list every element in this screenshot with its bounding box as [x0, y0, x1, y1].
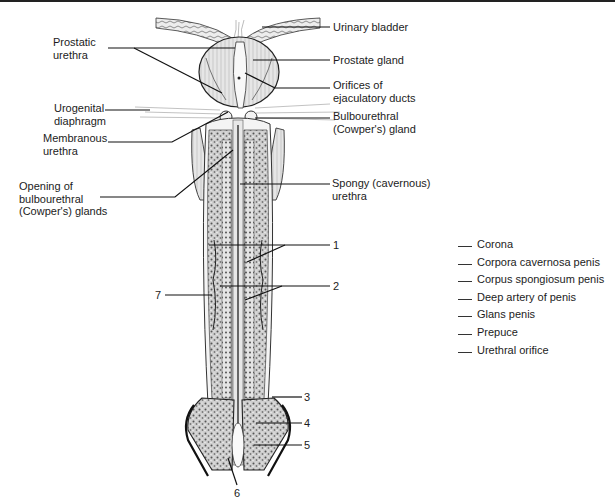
answer-key-item: Corpus spongiosum penis	[458, 271, 604, 289]
answer-key-item: Urethral orifice	[458, 342, 604, 360]
answer-blank[interactable]	[458, 264, 472, 265]
label-prostate-gland: Prostate gland	[333, 54, 404, 67]
answer-blank[interactable]	[458, 281, 472, 282]
answer-key-item: Corpora cavernosa penis	[458, 254, 604, 272]
label-bulbourethral-gland: Bulbourethral (Cowper's) gland	[333, 110, 416, 135]
answer-blank[interactable]	[458, 352, 472, 353]
callout-3: 3	[304, 391, 310, 403]
answer-key-list: Corona Corpora cavernosa penis Corpus sp…	[458, 236, 604, 359]
label-orifices-ejaculatory-ducts: Orifices of ejaculatory ducts	[333, 79, 416, 104]
answer-key-item: Prepuce	[458, 324, 604, 342]
answer-key-item: Glans penis	[458, 306, 604, 324]
callout-1: 1	[333, 239, 339, 251]
label-opening-bulbourethral-glands: Opening of bulbourethral (Cowper's) glan…	[19, 180, 107, 218]
answer-key-item: Deep artery of penis	[458, 289, 604, 307]
callout-2: 2	[333, 280, 339, 292]
callout-5: 5	[304, 439, 310, 451]
label-membranous-urethra: Membranous urethra	[43, 132, 103, 157]
label-prostatic-urethra: Prostatic urethra	[53, 36, 96, 61]
answer-key-item: Corona	[458, 236, 604, 254]
answer-blank[interactable]	[458, 246, 472, 247]
label-spongy-urethra: Spongy (cavernous) urethra	[332, 177, 430, 202]
callout-6: 6	[234, 487, 240, 499]
answer-blank[interactable]	[458, 334, 472, 335]
label-urogenital-diaphragm: Urogenital diaphragm	[54, 102, 102, 127]
answer-blank[interactable]	[458, 316, 472, 317]
answer-blank[interactable]	[458, 299, 472, 300]
label-urinary-bladder: Urinary bladder	[333, 21, 408, 34]
callout-7: 7	[155, 289, 161, 301]
callout-4: 4	[304, 417, 310, 429]
